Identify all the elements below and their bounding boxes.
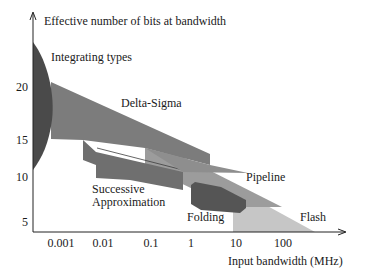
y-axis-title: Effective number of bits at bandwidth (44, 14, 226, 28)
y-tick-10: 10 (16, 170, 28, 184)
x-tick-10: 10 (230, 236, 242, 250)
y-tick-20: 20 (16, 80, 28, 94)
x-tick-0.1: 0.1 (144, 236, 159, 250)
x-tick-1: 1 (188, 236, 194, 250)
x-axis-title: Input bandwidth (MHz) (228, 254, 343, 268)
label-delta-sigma: Delta-Sigma (121, 96, 182, 110)
region-integrating (33, 42, 53, 170)
adc-architecture-chart: 20 15 10 5 0.001 0.01 0.1 1 10 100 Effec… (0, 0, 365, 276)
label-integrating: Integrating types (51, 50, 132, 64)
x-tick-100: 100 (274, 236, 292, 250)
label-sar-line2: Approximation (92, 195, 165, 209)
region-delta-sigma (51, 82, 210, 165)
x-tick-0.001: 0.001 (48, 236, 75, 250)
label-folding: Folding (187, 210, 224, 224)
label-flash: Flash (300, 210, 326, 224)
label-pipeline: Pipeline (246, 170, 285, 184)
label-sar-line1: Successive (92, 182, 145, 196)
y-tick-5: 5 (22, 215, 28, 229)
y-tick-15: 15 (16, 133, 28, 147)
x-tick-0.01: 0.01 (93, 236, 114, 250)
